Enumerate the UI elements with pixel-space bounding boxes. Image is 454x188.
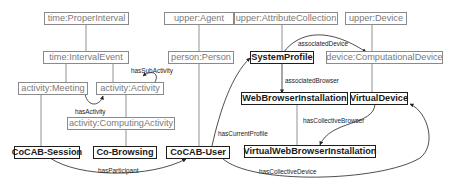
node-co-browsing: Co-Browsing — [93, 146, 157, 159]
node-activity-activity: activity:Activity — [96, 82, 164, 95]
node-activity-computing-activity: activity:ComputingActivity — [67, 117, 175, 130]
node-web-browser-installation: WebBrowserInstallation — [241, 92, 348, 105]
edge-label-has-collective-device: hasCollectiveDevice — [259, 169, 317, 175]
node-person-person: person:Person — [168, 51, 234, 64]
node-cocab-user: CoCAB-User — [166, 146, 230, 159]
edge-label-has-collective-browser: hasCollectiveBrowser — [303, 118, 364, 124]
node-upper-attribute-collection: upper:AttributeCollection — [234, 12, 338, 25]
edge-label-has-current-profile: hasCurrentProfile — [218, 131, 268, 137]
node-virtual-device: VirtualDevice — [350, 92, 408, 105]
node-time-interval-event: time:IntervalEvent — [43, 51, 129, 64]
edge-label-has-participant: hasParticipant — [98, 168, 139, 174]
node-system-profile: SystemProfile — [250, 51, 314, 64]
node-upper-agent: upper:Agent — [164, 12, 234, 25]
node-cocab-session: CoCAB-Session — [14, 146, 80, 159]
edge-label-associated-browser: associatedBrowser — [285, 78, 339, 84]
node-activity-meeting: activity:Meeting — [18, 82, 88, 95]
node-upper-device: upper:Device — [345, 12, 407, 25]
edge-label-associated-device: associatedDevice — [298, 41, 348, 47]
node-virtual-web-browser-installation: VirtualWebBrowserInstallation — [244, 145, 376, 158]
edge-label-has-activity: hasActivity — [75, 109, 106, 115]
node-time-proper-interval: time:ProperInterval — [44, 12, 129, 25]
node-device-computational-device: device:ComputationalDevice — [326, 51, 443, 64]
edge-label-has-sub-activity: hasSubActivity — [131, 68, 173, 74]
